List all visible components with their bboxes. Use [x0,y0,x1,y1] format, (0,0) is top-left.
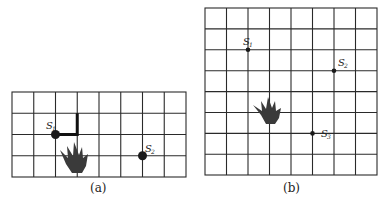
caption-b: (b) [283,181,300,195]
sensor-s3-b: S 3 [310,128,331,140]
panel-a: S 1 S 2 [12,92,186,177]
fire-icon [253,97,281,124]
svg-text:1: 1 [249,41,253,48]
svg-text:3: 3 [327,133,331,140]
grid-a [12,92,186,177]
svg-text:2: 2 [343,62,348,69]
fire-icon [60,142,88,173]
sensor-s2-a: S 2 [138,143,155,160]
sensor-path [56,113,78,134]
panel-b: S 1 S 2 S 3 [205,8,377,175]
grid-b [205,8,377,175]
diagram-canvas: S 1 S 2 [0,0,383,207]
sensor-s1-a: S 1 [46,120,60,139]
caption-a: (a) [90,181,107,195]
svg-text:2: 2 [150,148,155,155]
svg-text:1: 1 [52,125,56,132]
